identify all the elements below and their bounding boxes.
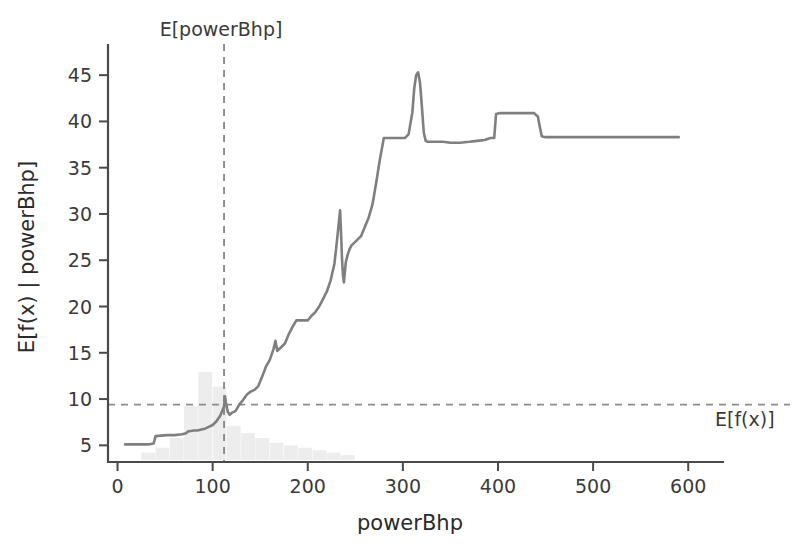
y-tick-label: 20 — [68, 296, 92, 318]
y-tick-label: 40 — [68, 110, 92, 132]
x-tick-label: 600 — [670, 475, 706, 497]
y-tick-label: 25 — [68, 249, 92, 271]
histogram-bar — [170, 438, 184, 460]
x-tick-label: 200 — [290, 475, 326, 497]
powerbhp-distribution-histogram — [141, 372, 355, 460]
y-tick-label: 35 — [68, 157, 92, 179]
x-axis-ticks — [118, 462, 689, 471]
histogram-bar — [227, 426, 241, 460]
histogram-bar — [198, 372, 212, 460]
histogram-bar — [156, 448, 170, 460]
y-axis-tick-labels: 51015202530354045 — [68, 64, 92, 456]
y-tick-label: 45 — [68, 64, 92, 86]
chart-canvas: 0100200300400500600 51015202530354045 po… — [0, 0, 811, 550]
x-tick-label: 300 — [385, 475, 421, 497]
y-tick-label: 10 — [68, 388, 92, 410]
histogram-bar — [313, 450, 327, 460]
x-tick-label: 100 — [194, 475, 230, 497]
x-tick-label: 500 — [575, 475, 611, 497]
x-axis-title: powerBhp — [357, 511, 463, 535]
histogram-bar — [298, 448, 312, 460]
y-tick-label: 15 — [68, 342, 92, 364]
y-tick-label: 5 — [80, 434, 92, 456]
expected-fx-label: E[f(x)] — [715, 408, 775, 430]
y-axis-title: E[f(x) | powerBhp] — [15, 161, 40, 353]
histogram-bar — [327, 453, 341, 460]
x-tick-label: 0 — [111, 475, 123, 497]
histogram-bar — [241, 433, 255, 460]
y-axis-ticks — [99, 75, 108, 445]
histogram-bar — [270, 443, 284, 460]
partial-dependence-chart: 0100200300400500600 51015202530354045 po… — [0, 0, 811, 550]
histogram-bar — [255, 438, 269, 460]
x-axis-tick-labels: 0100200300400500600 — [111, 475, 706, 497]
histogram-bar — [141, 453, 155, 460]
x-tick-label: 400 — [480, 475, 516, 497]
histogram-bar — [341, 455, 355, 460]
expected-powerbhp-label: E[powerBhp] — [160, 18, 283, 40]
histogram-bar — [284, 445, 298, 460]
y-tick-label: 30 — [68, 203, 92, 225]
